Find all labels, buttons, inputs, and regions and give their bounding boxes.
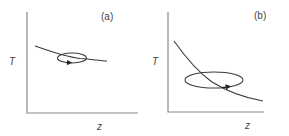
panel-a-label: (a): [101, 11, 113, 22]
panel-b-temperature-curve: [174, 41, 263, 101]
panel-b-xlabel: z: [244, 120, 250, 131]
panel-a-ylabel: T: [9, 56, 16, 67]
panel-b: (b) T z: [152, 10, 266, 131]
panel-a: (a) T z: [9, 11, 138, 132]
panel-a-circulation-loop: [58, 53, 87, 63]
panel-a-axes: [27, 12, 138, 113]
panel-b-ylabel: T: [152, 56, 159, 67]
panel-b-axes: [168, 12, 264, 112]
panel-a-xlabel: z: [96, 121, 102, 132]
panel-b-label: (b): [254, 10, 266, 21]
figure-canvas: (a) T z (b) T z: [0, 0, 289, 136]
panel-b-circulation-loop: [185, 72, 243, 88]
